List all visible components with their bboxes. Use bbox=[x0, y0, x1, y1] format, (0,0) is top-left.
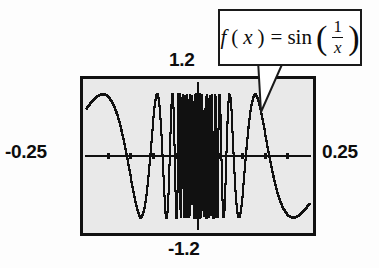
y-max-label: 1.2 bbox=[169, 49, 195, 71]
formula-f: f bbox=[220, 25, 226, 50]
formula-x-var: x bbox=[243, 25, 252, 50]
formula-numerator: 1 bbox=[334, 18, 343, 35]
x-min-label: -0.25 bbox=[5, 141, 47, 163]
formula-denominator: x bbox=[334, 39, 342, 56]
x-max-label: 0.25 bbox=[322, 141, 358, 163]
formula-rparen-var: ) bbox=[257, 25, 266, 50]
formula-fraction: 1 x bbox=[332, 18, 343, 56]
figure-sin-one-over-x: 1.2 -1.2 -0.25 0.25 f(x) = sin ( 1 x ) bbox=[0, 0, 379, 268]
formula-sin: sin bbox=[287, 25, 312, 50]
y-min-label: -1.2 bbox=[168, 238, 200, 260]
callout-pointer bbox=[236, 60, 306, 120]
formula-lparen-var: ( bbox=[230, 25, 239, 50]
callout-pointer-shape bbox=[258, 60, 284, 112]
formula-equals: = bbox=[270, 25, 284, 50]
formula-expression: f(x) = sin ( 1 x ) bbox=[220, 11, 360, 64]
formula-big-rparen: ) bbox=[348, 26, 359, 50]
formula-callout-box: f(x) = sin ( 1 x ) bbox=[218, 9, 362, 66]
formula-big-lparen: ( bbox=[316, 26, 327, 50]
